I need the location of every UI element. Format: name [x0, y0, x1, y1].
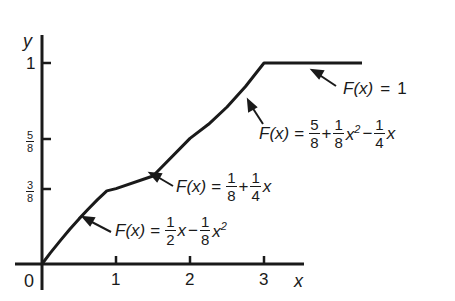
equals-sign: =: [294, 125, 304, 142]
arrowhead-icon: [248, 100, 256, 111]
fraction-numerator: 1: [250, 170, 260, 187]
annotation-piece3: F(x) = 58 + 18 x2 − 14 x: [258, 117, 396, 150]
x-axis-label: x: [294, 272, 303, 290]
fraction-denominator: 4: [375, 134, 383, 150]
y-axis-label: y: [23, 32, 32, 50]
fraction-denominator: 8: [27, 192, 33, 204]
function-name: F(x): [176, 178, 206, 195]
plus-sign: +: [322, 125, 332, 142]
annotation-arrows: [83, 70, 336, 232]
x-tick-label-2: 2: [185, 271, 194, 288]
fraction-denominator: 8: [27, 142, 33, 154]
exponent: 2: [354, 123, 360, 135]
variable-x: x: [212, 222, 221, 241]
function-name: F(x): [343, 80, 373, 97]
variable: x2: [346, 124, 361, 143]
fraction: 14: [250, 170, 260, 203]
y-tick-label-1: 1: [26, 55, 35, 72]
fraction-denominator: 8: [201, 231, 209, 247]
fraction: 12: [165, 214, 175, 247]
equals-sign: =: [211, 178, 221, 195]
x-tick-label-1: 1: [111, 271, 120, 288]
origin-label: 0: [24, 272, 34, 290]
fraction: 18: [200, 214, 210, 247]
value: 1: [397, 80, 406, 97]
fraction-denominator: 8: [227, 187, 235, 203]
function-name: F(x): [115, 222, 145, 239]
variable-x: x: [346, 125, 355, 144]
fraction-numerator: 3: [26, 180, 34, 192]
function-name: F(x): [259, 125, 289, 142]
cdf-plot: [0, 0, 455, 301]
x-tick-label-3: 3: [259, 271, 268, 288]
y-tick-label-3-8: 38: [25, 180, 35, 204]
plus-sign: +: [239, 178, 249, 195]
fraction: 58: [309, 117, 319, 150]
fraction: 18: [333, 117, 343, 150]
equals-sign: =: [380, 80, 390, 97]
arrowhead-icon: [83, 217, 94, 225]
fraction-numerator: 5: [26, 130, 34, 142]
exponent: 2: [221, 220, 227, 232]
variable-x: x: [387, 125, 396, 142]
fraction-numerator: 1: [226, 170, 236, 187]
variable: x2: [212, 221, 227, 240]
fraction-denominator: 4: [251, 187, 259, 203]
fraction: 18: [226, 170, 236, 203]
fraction-numerator: 1: [333, 117, 343, 134]
fraction-numerator: 5: [309, 117, 319, 134]
y-tick-label-5-8: 58: [25, 130, 35, 154]
fraction: 14: [374, 117, 384, 150]
equals-sign: =: [150, 222, 160, 239]
minus-sign: −: [188, 222, 198, 239]
fraction-denominator: 2: [166, 231, 174, 247]
fraction-numerator: 1: [165, 214, 175, 231]
annotation-piece2: F(x) = 18 + 14 x: [175, 170, 272, 203]
fraction-denominator: 8: [310, 134, 318, 150]
variable-x: x: [178, 222, 187, 239]
annotation-piece4: F(x) = 1: [342, 80, 408, 97]
fraction-numerator: 1: [374, 117, 384, 134]
fraction-denominator: 8: [334, 134, 342, 150]
fraction-numerator: 1: [200, 214, 210, 231]
annotation-piece1: F(x) = 12 x − 18 x2: [114, 214, 228, 247]
minus-sign: −: [362, 125, 372, 142]
variable-x: x: [263, 178, 272, 195]
